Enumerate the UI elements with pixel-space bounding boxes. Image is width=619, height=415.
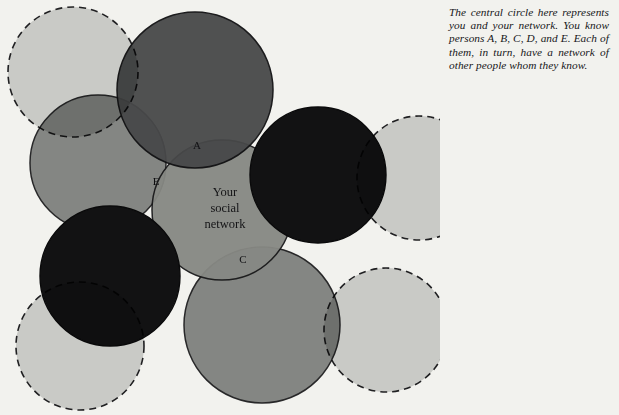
circle-network-b	[250, 107, 386, 243]
circle-outer-network-bottom-right	[324, 268, 440, 392]
circle-network-d	[40, 206, 180, 346]
center-label-line-3: network	[205, 217, 247, 231]
center-label-line-1: Your	[213, 185, 238, 199]
center-label-line-2: social	[210, 201, 240, 215]
node-label-c: C	[239, 253, 246, 265]
node-label-e: E	[153, 175, 160, 187]
figure-page: A E C Your social network The central ci…	[0, 0, 619, 415]
node-label-a: A	[193, 139, 201, 151]
social-network-diagram: A E C Your social network	[0, 0, 440, 415]
figure-caption: The central circle here represents you a…	[449, 6, 609, 72]
